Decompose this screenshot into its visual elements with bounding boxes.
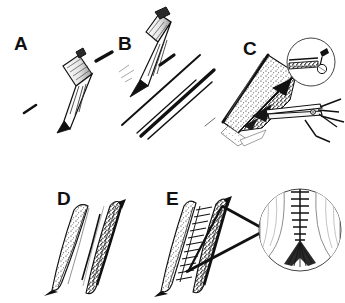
inset-c [287, 38, 335, 86]
panel-label-b: B [118, 34, 132, 53]
panel-label-a: A [14, 34, 28, 53]
surgical-technique-figure: A B C D E [0, 0, 345, 303]
inset-e [259, 189, 341, 272]
figure-artwork [0, 0, 345, 303]
panel-label-c: C [243, 39, 257, 58]
panel-label-e: E [166, 189, 179, 208]
panel-label-d: D [57, 189, 71, 208]
